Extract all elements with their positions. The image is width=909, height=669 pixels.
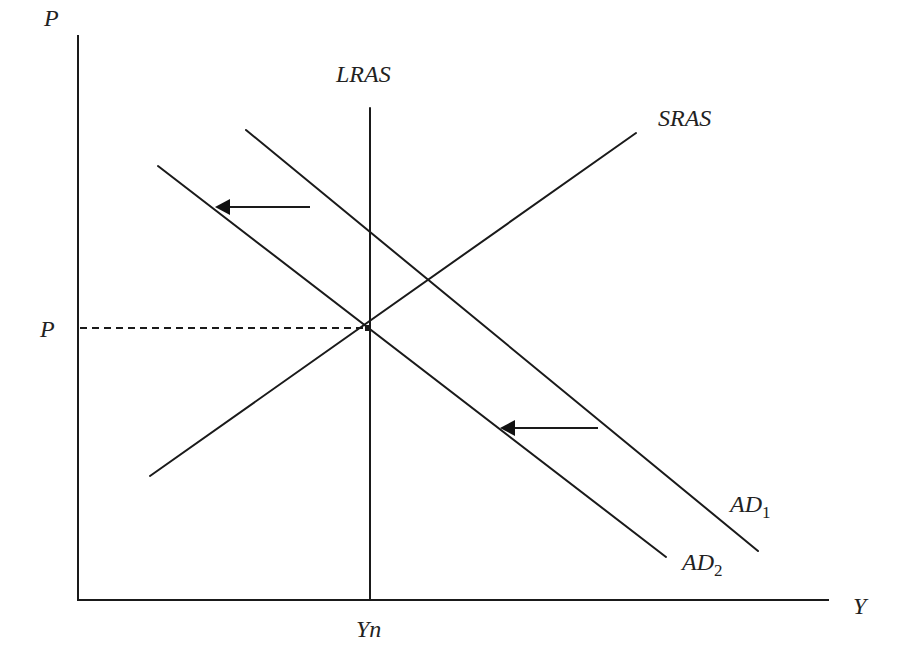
lras-label: LRAS bbox=[335, 61, 391, 87]
sras-curve bbox=[150, 133, 636, 476]
ad1-label: AD1 bbox=[728, 491, 771, 522]
ad1-curve bbox=[246, 130, 758, 551]
shift-arrow-lower bbox=[500, 420, 598, 436]
x-axis-label: Y bbox=[853, 593, 869, 619]
arrowhead-left-icon bbox=[500, 420, 515, 436]
ad2-label: AD2 bbox=[680, 549, 723, 580]
y-axis-label: P bbox=[43, 5, 59, 31]
shift-arrow-upper bbox=[215, 199, 310, 215]
price-level-label: P bbox=[39, 316, 55, 342]
equilibrium-point bbox=[365, 325, 371, 331]
ad2-curve bbox=[158, 166, 666, 557]
natural-output-label: Yn bbox=[356, 616, 381, 642]
ad-as-diagram: P Y P Yn LRAS SRAS AD1 AD2 bbox=[0, 0, 909, 669]
sras-label: SRAS bbox=[658, 105, 711, 131]
